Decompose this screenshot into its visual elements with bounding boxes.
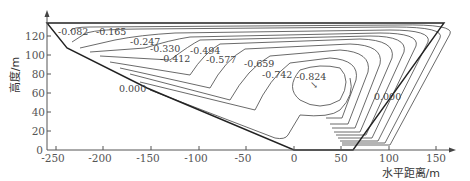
x-ticks bbox=[56, 146, 436, 150]
x-tick-label: 100 bbox=[379, 152, 399, 164]
x-tick-labels: -250 -200 -150 -100 -50 0 50 100 150 bbox=[41, 152, 446, 164]
contour-label: -0.577 bbox=[206, 54, 236, 65]
y-tick-label: 60 bbox=[32, 87, 45, 99]
x-tick-label: -100 bbox=[184, 152, 208, 164]
y-tick-label: 40 bbox=[32, 106, 45, 118]
y-tick-label: 80 bbox=[32, 68, 45, 80]
y-axis-arrow-icon bbox=[45, 10, 50, 17]
y-tick-label: 120 bbox=[25, 30, 45, 42]
x-tick-label: 150 bbox=[426, 152, 446, 164]
x-axis-arrow-icon bbox=[449, 148, 456, 153]
contour-labels: -0.082 -0.165 -0.247 -0.330 -0.412 -0.49… bbox=[58, 26, 401, 102]
x-tick-label: -200 bbox=[88, 152, 112, 164]
x-tick-label: 50 bbox=[334, 152, 347, 164]
contour-label: -0.082 bbox=[58, 26, 88, 37]
contour-label: -0.742 bbox=[262, 69, 292, 80]
minimum-arrow-icon: ↘ bbox=[310, 79, 318, 90]
x-tick-label: -50 bbox=[235, 152, 252, 164]
plot-area: -0.082 -0.165 -0.247 -0.330 -0.412 -0.49… bbox=[47, 23, 450, 150]
contour-chart: -0.082 -0.165 -0.247 -0.330 -0.412 -0.49… bbox=[0, 0, 470, 181]
x-tick-label: 0 bbox=[291, 152, 298, 164]
x-axis-title: 水平距离/m bbox=[382, 166, 440, 180]
y-axis-title: 高度/m bbox=[8, 57, 22, 93]
contour-label: 0.000 bbox=[374, 91, 401, 102]
contour-label: 0.000 bbox=[119, 83, 146, 94]
contour-label: -0.165 bbox=[96, 26, 126, 37]
y-tick-label: 20 bbox=[32, 125, 45, 137]
y-ticks bbox=[47, 36, 51, 131]
y-tick-labels: 0 20 40 60 80 100 120 bbox=[25, 30, 45, 156]
contour-label: -0.412 bbox=[160, 53, 190, 64]
contour-label: -0.659 bbox=[244, 58, 274, 69]
y-tick-label: 100 bbox=[25, 49, 45, 61]
x-tick-label: -250 bbox=[41, 152, 65, 164]
x-tick-label: -150 bbox=[136, 152, 160, 164]
